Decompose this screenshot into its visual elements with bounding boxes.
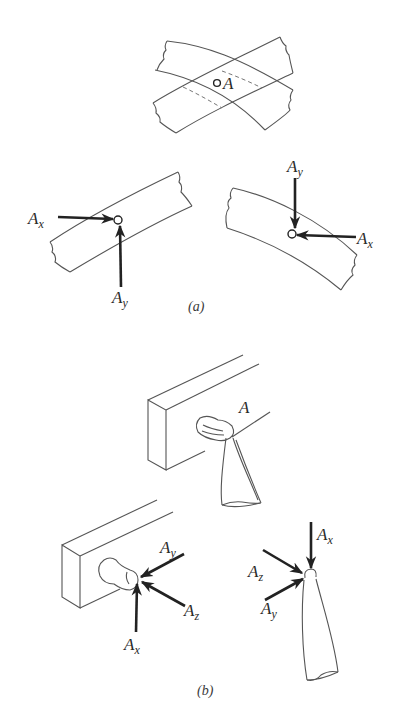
force-arrow-az bbox=[142, 582, 185, 606]
force-label-ax: Ax bbox=[27, 209, 44, 231]
force-label-ax: Ax bbox=[356, 229, 373, 251]
crossed-strips-overview: A bbox=[153, 37, 293, 133]
force-arrow-az bbox=[263, 550, 302, 573]
force-label-ay: Ay bbox=[286, 157, 303, 179]
right-strip-fbd: Ay Ax bbox=[226, 157, 374, 290]
part-a: A Ax Ay Ay Ax (a) bbox=[27, 37, 373, 315]
force-arrow-ay bbox=[141, 554, 184, 577]
caption-b: (b) bbox=[197, 683, 214, 699]
free-body-diagram: A Ax Ay Ay Ax (a) bbox=[0, 0, 393, 706]
force-arrow-ay bbox=[120, 226, 121, 287]
force-arrow-ax bbox=[297, 235, 356, 237]
pin-a bbox=[114, 216, 122, 224]
force-arrow-ax bbox=[136, 584, 137, 632]
force-label-az: Az bbox=[247, 562, 263, 584]
force-label-ay: Ay bbox=[260, 599, 277, 621]
force-label-ay: Ay bbox=[159, 538, 176, 560]
force-label-ax: Ax bbox=[316, 525, 333, 547]
pin-a-marker bbox=[214, 80, 221, 87]
left-strip-fbd: Ax Ay bbox=[27, 172, 192, 310]
pin-a bbox=[288, 230, 296, 238]
hanging-sack-fbd: Ax Az Ay bbox=[247, 522, 338, 680]
beam-with-strap-overview: A bbox=[148, 355, 270, 507]
force-label-az: Az bbox=[183, 601, 199, 623]
part-b: A Ay Az Ax Ax bbox=[62, 355, 338, 699]
force-arrow-ay bbox=[265, 579, 303, 600]
caption-a: (a) bbox=[188, 299, 205, 315]
force-label-ay: Ay bbox=[111, 288, 128, 310]
point-label: A bbox=[222, 74, 234, 93]
point-label: A bbox=[238, 398, 250, 417]
force-arrow-ax bbox=[58, 217, 113, 219]
force-label-ax: Ax bbox=[123, 635, 140, 657]
beam-knob-fbd: Ay Az Ax bbox=[62, 500, 199, 657]
